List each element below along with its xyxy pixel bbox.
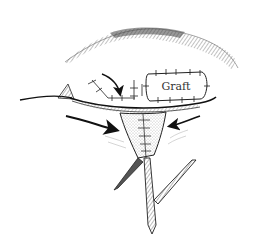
right-advancement-arrow <box>170 116 200 126</box>
z-plasty-limbs <box>114 158 196 234</box>
surgical-diagram: Graft <box>0 0 256 245</box>
lateral-canthus <box>20 84 74 100</box>
eyebrow <box>65 28 238 70</box>
graft-patch: Graft <box>143 69 210 103</box>
upper-advancement-arrow <box>102 74 120 94</box>
left-advancement-arrow <box>66 116 116 130</box>
wedge-closure <box>120 112 166 158</box>
graft-label: Graft <box>161 80 191 93</box>
